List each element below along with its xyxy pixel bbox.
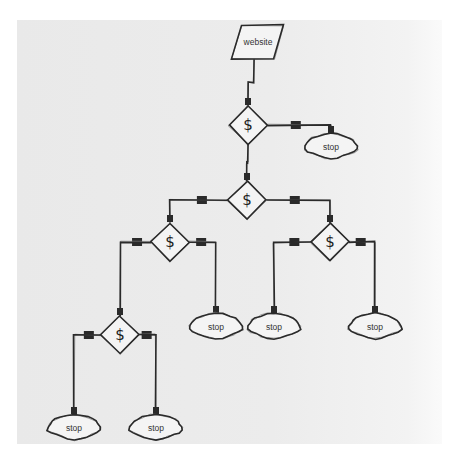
edge-sketch [120,241,151,316]
terminal-label: stop [266,322,282,332]
decision-label: $ [325,233,335,251]
edge-sketch [273,242,311,315]
node-decision-d3: $ [150,223,189,261]
edge-d5-s5 [71,331,101,415]
decision-label: $ [115,326,125,344]
nodes-layer: website$stop$$$$stopstopstopstopstop [47,25,403,441]
edge-stroke [120,242,151,316]
arrow-marker [213,306,219,313]
edge-stroke [139,335,156,416]
node-decision-d5: $ [101,316,140,354]
node-terminal-s6: stop [128,414,183,440]
edge-d4-s4 [348,238,378,315]
terminal-label: stop [323,142,339,152]
node-parallelogram-website: website [231,25,284,60]
edge-stroke [349,241,375,313]
edge-d2-d3 [167,196,228,223]
node-decision-d4: $ [311,223,349,261]
arrow-marker [328,126,334,133]
node-terminal-s4: stop [348,312,403,339]
edge-sketch [140,334,157,414]
edge-d5-s6 [139,331,159,415]
edge-sketch [348,241,376,315]
node-terminal-s5: stop [47,414,101,441]
edge-website-d1 [245,59,254,107]
arrow-marker [271,306,277,313]
edge-d1-d2 [244,144,250,182]
edge-d3-d5 [117,238,151,317]
node-terminal-s3: stop [247,313,301,339]
decision-label: $ [243,116,253,134]
edge-d2-d4 [265,196,333,223]
edge-stroke [74,335,101,415]
edge-sketch [189,241,216,314]
terminal-label: stop [66,423,82,433]
arrow-marker [167,215,173,222]
terminal-label: stop [208,322,224,332]
decision-label: $ [242,191,252,209]
edge-d1-s1 [267,121,334,134]
edge-stroke [189,242,216,313]
arrow-marker [117,308,123,315]
edge-stroke [274,242,312,314]
flowchart: website$stop$$$$stopstopstopstopstop [0,0,457,465]
node-decision-d1: $ [228,106,267,145]
input-label: website [243,37,273,47]
arrow-marker [327,215,333,222]
arrow-marker [153,407,159,414]
edge-sketch [74,334,101,414]
node-terminal-s2: stop [189,312,244,339]
edge-d3-s2 [189,238,219,314]
arrow-marker [245,98,251,105]
decision-label: $ [165,233,175,251]
terminal-label: stop [367,322,383,332]
edge-d4-s3 [271,238,311,315]
node-terminal-s1: stop [304,133,358,159]
arrow-marker [71,407,77,414]
node-decision-d2: $ [227,181,266,219]
arrow-marker [244,173,250,180]
terminal-label: stop [148,423,164,433]
